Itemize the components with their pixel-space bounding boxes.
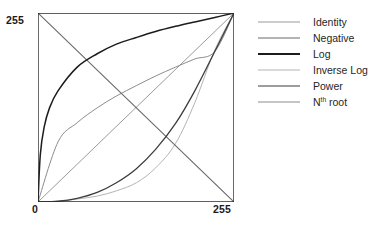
legend-label-inverse-log: Inverse Log: [302, 62, 368, 78]
legend-item-nth-root: Nth root: [256, 94, 382, 110]
legend-line-inverse-log: [256, 62, 302, 78]
nth-root-base: N: [313, 96, 321, 108]
legend-label-power: Power: [302, 78, 343, 94]
curve-group: [38, 13, 234, 202]
legend-line-identity: [256, 14, 302, 30]
nth-root-tail: root: [326, 96, 347, 108]
legend-label-identity: Identity: [302, 14, 347, 30]
chart-legend: Identity Negative Log Inverse Log Power …: [256, 14, 382, 110]
plot-canvas: [38, 13, 234, 202]
legend-item-power: Power: [256, 78, 382, 94]
legend-line-nth-root: [256, 94, 302, 110]
plot-area: [38, 13, 234, 202]
legend-label-negative: Negative: [302, 30, 354, 46]
legend-line-power: [256, 78, 302, 94]
legend-item-log: Log: [256, 46, 382, 62]
legend-line-negative: [256, 30, 302, 46]
x-axis-min-label: 0: [32, 203, 38, 215]
x-axis-max-label: 255: [213, 203, 231, 215]
legend-label-log: Log: [302, 46, 331, 62]
y-axis-max-label: 255: [6, 14, 24, 26]
legend-item-negative: Negative: [256, 30, 382, 46]
intensity-transformation-figure: 255 0 255 Identity Negative Log Inverse …: [0, 0, 382, 228]
legend-line-log: [256, 46, 302, 62]
legend-label-nth-root: Nth root: [302, 94, 347, 110]
legend-item-identity: Identity: [256, 14, 382, 30]
legend-item-inverse-log: Inverse Log: [256, 62, 382, 78]
